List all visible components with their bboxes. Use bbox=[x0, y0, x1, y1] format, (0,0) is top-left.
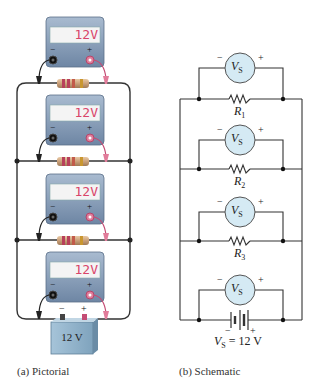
schematic-meter-label-4: VS bbox=[231, 281, 243, 297]
caption-pictorial: (a) Pictorial bbox=[17, 365, 69, 377]
schematic-minus-2: − bbox=[217, 124, 223, 135]
schematic-plus-1: + bbox=[258, 52, 264, 63]
battery-plus: + bbox=[81, 303, 87, 314]
meter-4-minus: − bbox=[50, 279, 55, 289]
meter-display-2: 12V bbox=[72, 105, 98, 120]
resistor-label-2: R2 bbox=[234, 174, 245, 190]
meter-3-plus: + bbox=[87, 201, 92, 211]
meter-4-plus: + bbox=[87, 279, 92, 289]
schematic-meter-label-3: VS bbox=[231, 203, 243, 219]
meter-display-1: 12V bbox=[72, 27, 98, 42]
schematic-minus-3: − bbox=[217, 196, 223, 207]
schematic-minus-1: − bbox=[217, 52, 223, 63]
source-voltage-label: VS = 12 V bbox=[214, 334, 262, 350]
meter-3-minus: − bbox=[50, 201, 55, 211]
meter-1-plus: + bbox=[87, 44, 92, 54]
meter-display-4: 12V bbox=[72, 262, 98, 277]
battery-label: 12 V bbox=[51, 331, 93, 343]
schematic-meter-label-1: VS bbox=[231, 59, 243, 75]
resistor-label-3: R3 bbox=[234, 246, 245, 262]
figure-parallel-voltmeters: 12V 12V 12V 12V − + − + − + − + − + 12 V… bbox=[0, 0, 317, 391]
schematic-meter-label-2: VS bbox=[231, 131, 243, 147]
meter-display-3: 12V bbox=[72, 184, 98, 199]
meter-2-minus: − bbox=[50, 122, 55, 132]
schematic-plus-2: + bbox=[258, 124, 264, 135]
resistor-label-1: R1 bbox=[234, 104, 245, 120]
resistor-1 bbox=[57, 79, 89, 88]
schematic-plus-4: + bbox=[258, 274, 264, 285]
schematic-plus-3: + bbox=[258, 196, 264, 207]
meter-2-plus: + bbox=[87, 122, 92, 132]
schematic-minus-4: − bbox=[217, 274, 223, 285]
meter-1-minus: − bbox=[50, 44, 55, 54]
battery-minus: − bbox=[59, 303, 65, 314]
caption-schematic: (b) Schematic bbox=[179, 365, 240, 377]
